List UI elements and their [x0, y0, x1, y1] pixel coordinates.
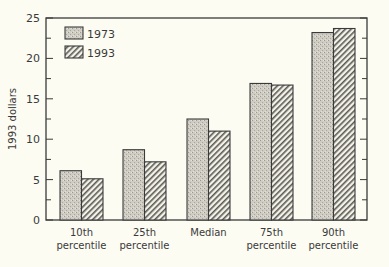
legend-swatch-1973: [65, 27, 83, 39]
bar-1973: [123, 150, 145, 220]
bar-1993: [145, 162, 167, 220]
y-tick-label: 15: [26, 93, 40, 106]
x-category-label: 10th: [70, 227, 93, 238]
bar-1993: [334, 29, 356, 220]
legend-label: 1973: [87, 28, 115, 41]
bar-1973: [187, 119, 209, 220]
x-category-label: percentile: [119, 240, 169, 251]
legend-label: 1993: [87, 47, 115, 60]
bar-1993: [209, 131, 231, 220]
x-category-label: percentile: [246, 240, 296, 251]
y-tick-label: 5: [33, 174, 40, 187]
y-tick-label: 20: [26, 52, 40, 65]
y-tick-label: 25: [26, 12, 40, 25]
x-category-label: percentile: [308, 240, 358, 251]
x-category-label: 90th: [322, 227, 345, 238]
bar-1973: [250, 83, 272, 220]
bar-1973: [60, 171, 82, 220]
y-tick-label: 0: [33, 214, 40, 227]
x-category-label: 25th: [133, 227, 156, 238]
legend-swatch-1993: [65, 46, 83, 58]
bar-1993: [272, 85, 294, 220]
bar-1993: [82, 179, 104, 220]
bar-chart: 05101520251993 dollars10thpercentile25th…: [0, 0, 389, 267]
bar-1973: [312, 33, 334, 220]
x-category-label: Median: [190, 227, 226, 238]
y-axis-label: 1993 dollars: [7, 88, 18, 150]
y-tick-label: 10: [26, 133, 40, 146]
x-category-label: percentile: [56, 240, 106, 251]
x-category-label: 75th: [260, 227, 283, 238]
